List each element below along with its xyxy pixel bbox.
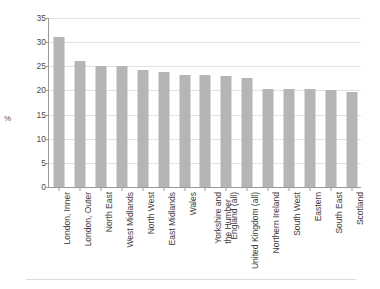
bar-slot [341,18,362,187]
x-tick-label: Scotland [355,192,365,225]
y-tick-mark [45,18,48,19]
plot-area [48,18,361,188]
bar[interactable] [158,72,169,187]
bar-slot [132,18,153,187]
x-tick-mark [101,188,102,191]
x-tick-mark [268,188,269,191]
x-tick-label-slot: South East [319,192,340,272]
y-axis-title: % [4,114,11,123]
bar[interactable] [54,37,65,187]
x-tick-label-slot: North West [131,192,152,272]
y-tick-label: 15 [20,110,46,120]
bar-slot [70,18,91,187]
bar[interactable] [75,61,86,187]
bar-slot [299,18,320,187]
bar-slot [320,18,341,187]
bar[interactable] [325,90,336,187]
bar-slot [174,18,195,187]
bar-slot [216,18,237,187]
y-tick-label: 20 [20,85,46,95]
x-tick-label-slot: West Midlands [111,192,132,272]
x-tick-mark [80,188,81,191]
bar[interactable] [304,89,315,188]
x-tick-label-slot: United Kingdom (all) [236,192,257,272]
x-tick-label-slot: Northern Ireland [257,192,278,272]
y-tick-mark [45,66,48,67]
x-tick-mark [59,188,60,191]
x-axis-tick-labels: London, InnerLondon, OuterNorth EastWest… [48,192,361,272]
bar[interactable] [242,78,253,187]
y-tick-label: 5 [20,158,46,168]
y-tick-label: 25 [20,61,46,71]
x-tick-label-slot: Wales [173,192,194,272]
bar-slot [153,18,174,187]
x-tick-mark [330,188,331,191]
bar[interactable] [221,76,232,187]
bar-slot [258,18,279,187]
bar[interactable] [283,89,294,188]
bar-slot [195,18,216,187]
bar-slot [237,18,258,187]
x-tick-label-slot: England (all) [215,192,236,272]
x-tick-label-slot: London, Outer [69,192,90,272]
y-axis-tick-labels: 35302520151050 [16,0,46,289]
x-tick-label-slot: Eastern [298,192,319,272]
x-tick-mark [351,188,352,191]
y-tick-label: 35 [20,13,46,23]
x-tick-mark [288,188,289,191]
y-tick-mark [45,115,48,116]
bar-slot [279,18,300,187]
x-tick-mark [247,188,248,191]
y-tick-mark [45,139,48,140]
y-tick-label: 30 [20,37,46,47]
y-tick-mark [45,42,48,43]
bar-series [49,18,361,187]
x-tick-label-slot: North East [90,192,111,272]
bar-slot [112,18,133,187]
bar[interactable] [200,75,211,187]
x-tick-mark [122,188,123,191]
x-tick-label-slot: South West [278,192,299,272]
bar-chart: % 35302520151050 London, InnerLondon, Ou… [0,0,380,289]
y-tick-label: 0 [20,182,46,192]
footer-divider [26,279,356,280]
bar[interactable] [263,89,274,188]
y-tick-mark [45,187,48,188]
bar[interactable] [117,66,128,187]
x-tick-mark [226,188,227,191]
bar-slot [91,18,112,187]
x-tick-mark [184,188,185,191]
bar[interactable] [137,70,148,187]
y-tick-mark [45,163,48,164]
bar[interactable] [346,92,357,187]
x-tick-mark [205,188,206,191]
x-tick-label-slot: East Midlands [152,192,173,272]
x-tick-label-slot: Scotland [340,192,361,272]
x-tick-mark [163,188,164,191]
x-tick-mark [142,188,143,191]
bar[interactable] [179,75,190,187]
x-tick-mark [309,188,310,191]
y-tick-label: 10 [20,134,46,144]
bar[interactable] [96,66,107,187]
y-tick-mark [45,90,48,91]
x-tick-label-slot: London, Inner [48,192,69,272]
x-tick-label-slot: Yorkshire andthe Humber [194,192,215,272]
bar-slot [49,18,70,187]
